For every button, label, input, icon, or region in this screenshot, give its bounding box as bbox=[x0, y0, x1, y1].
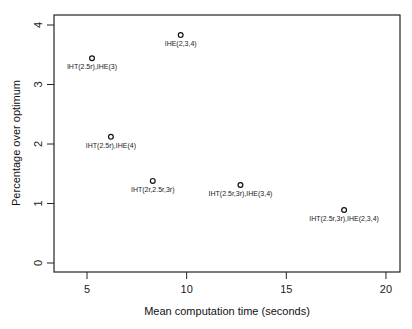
point-label: IHE(2,3,4) bbox=[165, 40, 197, 48]
data-point bbox=[238, 183, 243, 188]
y-axis-title: Percentage over optimum bbox=[10, 80, 22, 206]
data-point bbox=[342, 208, 347, 213]
point-label: IHT(2.5r),IHE(4) bbox=[86, 142, 136, 150]
point-label: IHT(2.5r),IHE(3) bbox=[67, 63, 117, 71]
y-tick-label: 4 bbox=[32, 22, 44, 28]
x-axis: 5101520 bbox=[84, 272, 392, 295]
y-axis: 01234 bbox=[32, 22, 54, 266]
point-label: IHT(2.5r,3r),IHE(3,4) bbox=[209, 190, 273, 198]
y-tick-label: 1 bbox=[32, 200, 44, 206]
x-tick-label: 15 bbox=[280, 283, 292, 295]
point-label: IHT(2r,2.5r,3r) bbox=[131, 186, 175, 194]
data-point bbox=[150, 178, 155, 183]
data-points: IHE(2,3,4)IHT(2.5r),IHE(3)IHT(2.5r),IHE(… bbox=[67, 33, 379, 223]
point-label: IHT(2.5r,3r),IHE(2,3,4) bbox=[309, 215, 379, 223]
x-tick-label: 10 bbox=[181, 283, 193, 295]
data-point bbox=[109, 134, 114, 139]
y-tick-label: 3 bbox=[32, 81, 44, 87]
data-point bbox=[90, 56, 95, 61]
scatter-chart: 5101520 01234 IHE(2,3,4)IHT(2.5r),IHE(3)… bbox=[0, 0, 412, 329]
x-tick-label: 20 bbox=[380, 283, 392, 295]
y-tick-label: 0 bbox=[32, 260, 44, 266]
data-point bbox=[178, 33, 183, 38]
y-tick-label: 2 bbox=[32, 141, 44, 147]
x-tick-label: 5 bbox=[84, 283, 90, 295]
x-axis-title: Mean computation time (seconds) bbox=[144, 305, 310, 317]
